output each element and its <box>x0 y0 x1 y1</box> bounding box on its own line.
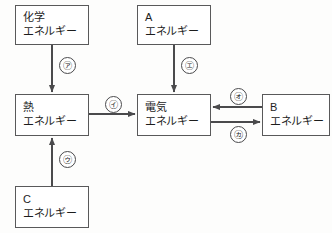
edge-label-e-text: ㋓ <box>185 61 194 70</box>
node-c-energy-line2: エネルギー <box>23 207 88 221</box>
edge-label-e: ㋓ <box>181 57 198 74</box>
node-b-energy-line2: エネルギー <box>270 115 329 129</box>
edge-label-a: ㋐ <box>59 57 76 74</box>
energy-conversion-diagram: 化学 エネルギー A エネルギー 熱 エネルギー 電気 エネルギー B エネルギ… <box>0 0 332 233</box>
edge-label-a-text: ㋐ <box>63 61 72 70</box>
node-c-energy-line1: C <box>23 193 88 207</box>
edge-label-u-text: ㋒ <box>63 155 72 164</box>
node-a-energy: A エネルギー <box>137 5 211 45</box>
node-a-energy-line1: A <box>145 11 210 25</box>
node-c-energy: C エネルギー <box>15 186 89 228</box>
node-electric-energy: 電気 エネルギー <box>137 94 211 136</box>
node-chemical-energy: 化学 エネルギー <box>15 5 89 45</box>
node-chemical-energy-line1: 化学 <box>23 11 88 25</box>
edge-label-i: ㋑ <box>105 96 122 113</box>
node-chemical-energy-line2: エネルギー <box>23 25 88 39</box>
node-heat-energy: 熱 エネルギー <box>15 94 89 136</box>
node-electric-energy-line2: エネルギー <box>145 115 210 129</box>
edge-label-ka-text: ㋕ <box>234 130 243 139</box>
edge-label-o-text: ㋔ <box>234 92 243 101</box>
edge-label-u: ㋒ <box>59 151 76 168</box>
node-b-energy: B エネルギー <box>262 94 330 136</box>
node-heat-energy-line1: 熱 <box>23 101 88 115</box>
edge-label-ka: ㋕ <box>230 126 247 143</box>
edge-label-i-text: ㋑ <box>109 100 118 109</box>
node-b-energy-line1: B <box>270 101 329 115</box>
node-electric-energy-line1: 電気 <box>145 101 210 115</box>
edge-label-o: ㋔ <box>230 88 247 105</box>
node-heat-energy-line2: エネルギー <box>23 115 88 129</box>
node-a-energy-line2: エネルギー <box>145 25 210 39</box>
